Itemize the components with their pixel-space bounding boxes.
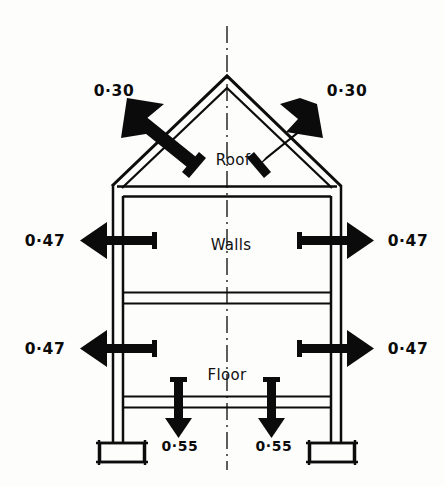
footing-right <box>306 440 358 465</box>
element-label-roof: Roof <box>216 151 251 169</box>
footing-left <box>96 440 148 465</box>
heat-loss-arrow-wall-lower-left <box>80 330 157 367</box>
heat-loss-arrow-wall-upper-right <box>297 222 374 259</box>
u-value-floor-left: 0·55 <box>162 438 199 454</box>
heat-loss-arrow-roof-right <box>247 98 323 178</box>
element-label-floor: Floor <box>208 366 247 384</box>
element-label-walls: Walls <box>211 236 252 254</box>
heat-loss-arrow-wall-upper-left <box>80 222 157 259</box>
figure-canvas: 0·30 0·30 0·47 0·47 0·47 0·47 0·55 0·55 … <box>0 0 444 486</box>
u-value-floor-right: 0·55 <box>256 438 293 454</box>
u-value-wall-upper-left: 0·47 <box>25 232 66 250</box>
u-value-wall-upper-right: 0·47 <box>388 232 429 250</box>
u-value-wall-lower-left: 0·47 <box>25 340 66 358</box>
heat-loss-arrow-wall-lower-right <box>297 330 374 367</box>
u-value-wall-lower-right: 0·47 <box>388 340 429 358</box>
u-value-roof-right: 0·30 <box>327 82 368 100</box>
u-value-roof-left: 0·30 <box>94 82 135 100</box>
